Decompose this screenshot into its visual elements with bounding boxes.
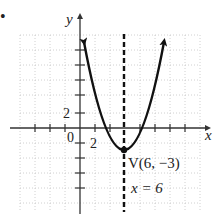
axis-of-symmetry-label: x = 6 bbox=[130, 180, 163, 196]
y-tick-label-2: 2 bbox=[63, 106, 70, 121]
grid bbox=[20, 35, 200, 212]
origin-label: 0 bbox=[67, 130, 74, 145]
vertex-point bbox=[121, 147, 127, 153]
vertex-label: V(6, −3) bbox=[128, 155, 180, 172]
figure-bullet: • bbox=[0, 8, 6, 25]
y-axis-label: y bbox=[64, 11, 73, 27]
x-tick-label-2: 2 bbox=[90, 136, 97, 151]
parabola-figure: • bbox=[0, 0, 220, 222]
x-axis-label: x bbox=[204, 127, 212, 143]
